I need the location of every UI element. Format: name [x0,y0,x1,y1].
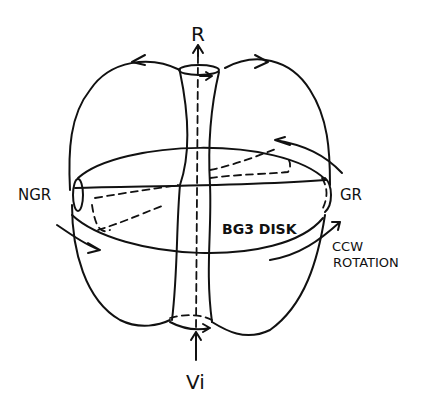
label-vi: Vi [186,372,205,392]
ngr-tube-end [73,179,83,211]
label-ngr: NGR [18,188,51,203]
lower-left-lobe [72,205,170,326]
gr-tube-end [322,178,327,210]
gr-cone-upper [210,148,278,170]
rotation-axis [196,56,198,330]
label-r: R [191,24,205,44]
label-rotation: ROTATION [333,256,399,269]
label-gr: GR [340,188,362,203]
bottom-jet-rotation-arrow [170,322,210,332]
ngr-inner [92,205,110,231]
jet-right-wall [209,72,219,322]
upper-left-lobe [69,62,180,190]
ngr-cone-lower [98,205,165,230]
label-disk: BG3 DISK [222,222,297,236]
disk-top-edge [78,148,326,180]
label-ccw: CCW [332,240,363,253]
top-axis-arrow-icon [193,45,203,56]
diagram-canvas [0,0,437,409]
bottom-axis-arrow-icon [191,332,201,360]
bottom-jet-rim [170,315,212,320]
disk-front-edge [75,180,325,188]
top-jet-opening [179,65,219,75]
jet-left-wall [172,72,188,320]
right-lobe-arrow-icon [255,55,268,68]
upper-right-lobe [225,59,330,185]
